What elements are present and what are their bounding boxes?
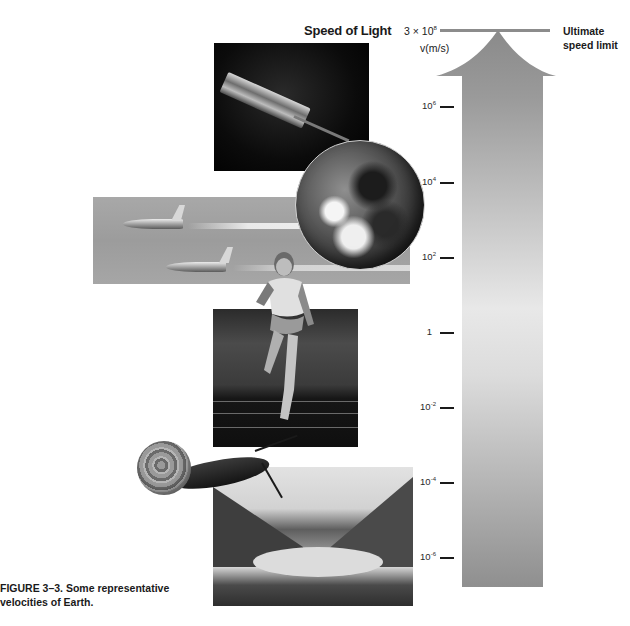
track-lane (213, 427, 358, 428)
laser-beam (293, 115, 349, 142)
jet-icon (166, 262, 226, 272)
runner-figure (250, 250, 320, 425)
limit-label-line1: Ultimate (563, 24, 618, 38)
glacier-ice (253, 547, 383, 577)
jet-tail-icon (171, 205, 185, 221)
caption-line2: velocities of Earth. (0, 595, 169, 609)
top-value-base: 3 × 10 (404, 25, 434, 37)
tick-mark (440, 407, 454, 409)
speed-of-light-value: 3 × 108 (404, 25, 437, 37)
tick-mark (440, 182, 454, 184)
tick-label: 1 (392, 326, 432, 337)
limit-label-line2: speed limit (563, 38, 618, 52)
tick-label: 106 (396, 100, 436, 111)
glacier-photo (213, 467, 413, 606)
figure-caption: FIGURE 3–3. Some representative velociti… (0, 581, 169, 609)
tick-mark (440, 257, 454, 259)
tick-mark (440, 482, 454, 484)
speed-limit-label: Ultimate speed limit (563, 24, 618, 52)
tick-mark (440, 106, 454, 108)
figure-title: Speed of Light (304, 23, 391, 38)
snail-shell (137, 441, 191, 495)
tick-label: 10-2 (396, 401, 436, 412)
laser-tube (220, 72, 311, 129)
tick-mark (440, 557, 454, 559)
tick-mark (440, 332, 454, 334)
velocity-arrow-icon (436, 30, 556, 588)
jet-tail-icon (219, 247, 233, 263)
caption-line1: FIGURE 3–3. Some representative (0, 581, 169, 595)
